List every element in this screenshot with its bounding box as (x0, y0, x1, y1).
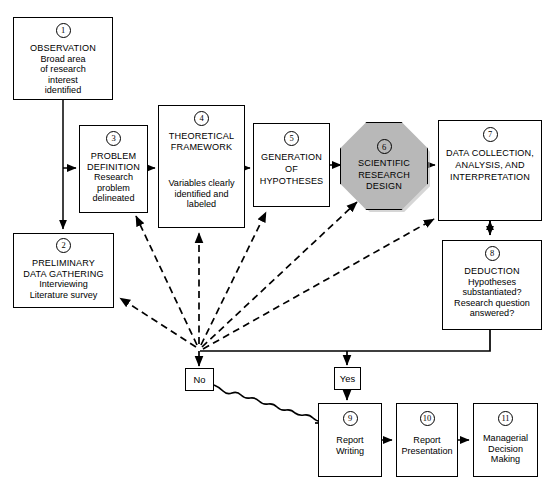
node-line-10-0: Report (413, 435, 440, 446)
node-heading-3: PROBLEM DEFINITION (87, 151, 140, 172)
node-line-4-0: Variables clearly (168, 178, 234, 189)
node-number-8: 8 (485, 246, 500, 261)
node-line-1-0: Broad area (41, 54, 86, 65)
node-number-9: 9 (343, 411, 358, 426)
node-line-8-0: Hypotheses (468, 277, 516, 288)
node-preliminary-data-gathering: 2 PRELIMINARY DATA GATHERING Interviewin… (13, 233, 114, 308)
node-number-4: 4 (194, 111, 209, 126)
node-number-7: 7 (483, 127, 498, 142)
node-number-11: 11 (498, 411, 513, 426)
research-process-flowchart: 1 OBSERVATION Broad area of research int… (0, 0, 548, 479)
node-line-11-1: Decision (488, 444, 523, 455)
node-number-6: 6 (377, 139, 392, 154)
node-heading-7: DATA COLLECTION, ANALYSIS, AND INTERPRET… (446, 147, 534, 183)
node-deduction: 8 DEDUCTION Hypotheses substantiated? Re… (442, 240, 542, 330)
node-line-8-2: Research question (454, 298, 530, 309)
node-line-1-3: identified (45, 85, 81, 96)
node-line-4-2: labeled (187, 199, 216, 210)
node-line-2-1: Literature survey (30, 290, 98, 301)
node-problem-definition: 3 PROBLEM DEFINITION Research problem de… (79, 125, 148, 213)
node-number-10: 10 (420, 411, 435, 426)
node-line-3-1: problem (97, 183, 130, 194)
node-heading-4: THEORETICAL FRAMEWORK (169, 131, 234, 152)
node-managerial-decision-making: 11 Managerial Decision Making (473, 403, 538, 477)
node-line-4-1: identified and (174, 189, 228, 200)
node-scientific-research-design: 6 SCIENTIFIC RESEARCH DESIGN (340, 122, 428, 210)
node-line-10-1: Presentation (401, 446, 452, 457)
node-report-writing: 9 Report Writing (318, 403, 382, 477)
node-line-1-2: interest (48, 75, 78, 86)
node-generation-of-hypotheses: 5 GENERATION OF HYPOTHESES (253, 123, 330, 207)
node-observation: 1 OBSERVATION Broad area of research int… (13, 17, 113, 100)
node-data-collection-analysis-interpretation: 7 DATA COLLECTION, ANALYSIS, AND INTERPR… (438, 120, 542, 221)
node-heading-6: SCIENTIFIC RESEARCH DESIGN (358, 158, 410, 193)
node-heading-1: OBSERVATION (30, 43, 96, 54)
node-line-9-0: Report (336, 435, 363, 446)
node-line-11-2: Making (491, 454, 520, 465)
decision-yes-box[interactable]: Yes (334, 367, 361, 390)
node-report-presentation: 10 Report Presentation (396, 403, 458, 477)
node-line-2-0: Interviewing (39, 279, 88, 290)
node-line-3-2: delineated (93, 193, 135, 204)
node-number-5: 5 (284, 131, 299, 146)
node-line-8-3: answered? (470, 308, 515, 319)
node-line-9-1: Writing (336, 446, 364, 457)
node-line-8-1: substantiated? (462, 287, 521, 298)
node-number-3: 3 (106, 131, 121, 146)
node-number-1: 1 (56, 23, 71, 38)
node-heading-8: DEDUCTION (464, 266, 519, 277)
node-heading-5: GENERATION OF HYPOTHESES (260, 151, 324, 187)
node-line-11-0: Managerial (483, 433, 528, 444)
node-number-2: 2 (56, 238, 71, 253)
node-theoretical-framework: 4 THEORETICAL FRAMEWORK Variables clearl… (158, 105, 245, 228)
node-line-3-0: Research (94, 172, 133, 183)
node-line-1-1: of research (40, 64, 86, 75)
decision-no-box[interactable]: No (185, 368, 214, 391)
node-heading-2: PRELIMINARY DATA GATHERING (23, 258, 103, 279)
